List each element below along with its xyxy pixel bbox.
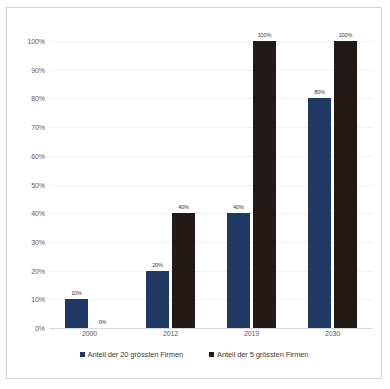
- bar-value-label: 0%: [99, 319, 107, 325]
- bar-group: 80%100%: [292, 41, 373, 328]
- axis-baseline: [49, 328, 373, 329]
- chart-card: 100%90%80%70%60%50%40%30%20%10%0% 10%0%2…: [6, 7, 382, 379]
- y-axis-tick-label: 80%: [13, 95, 45, 102]
- plot-area: 10%0%20%40%40%100%80%100%: [49, 41, 373, 328]
- bar[interactable]: 100%: [253, 41, 276, 328]
- bar[interactable]: 40%: [172, 213, 195, 328]
- x-axis-tick-label: 2019: [211, 330, 292, 344]
- y-axis-tick-label: 90%: [13, 66, 45, 73]
- bar-slot: 40%: [227, 41, 250, 328]
- x-axis: 2000201220192030: [49, 330, 373, 344]
- chart-plot-wrapper: 100%90%80%70%60%50%40%30%20%10%0% 10%0%2…: [7, 8, 381, 378]
- bar-slot: 40%: [172, 41, 195, 328]
- bar[interactable]: 20%: [146, 271, 169, 328]
- y-axis-tick-label: 100%: [13, 38, 45, 45]
- bar[interactable]: 40%: [227, 213, 250, 328]
- legend-entry[interactable]: Anteil der 5 grössten Firmen: [209, 350, 308, 359]
- bar-slot: 100%: [334, 41, 357, 328]
- y-axis-tick-label: 40%: [13, 210, 45, 217]
- legend-entry[interactable]: Anteil der 20 grössten Firmen: [80, 350, 183, 359]
- bar-groups: 10%0%20%40%40%100%80%100%: [49, 41, 373, 328]
- legend-label: Anteil der 5 grössten Firmen: [217, 350, 308, 359]
- bar-value-label: 80%: [314, 89, 325, 95]
- legend-swatch-icon: [80, 352, 85, 357]
- x-axis-tick-label: 2012: [130, 330, 211, 344]
- y-axis-tick-label: 50%: [13, 181, 45, 188]
- bar-slot: 100%: [253, 41, 276, 328]
- x-axis-tick-label: 2030: [292, 330, 373, 344]
- y-axis: 100%90%80%70%60%50%40%30%20%10%0%: [13, 41, 45, 328]
- y-axis-tick-label: 20%: [13, 267, 45, 274]
- bar-slot: 0%: [91, 41, 114, 328]
- bar[interactable]: 80%: [308, 98, 331, 328]
- bar-value-label: 40%: [233, 204, 244, 210]
- bar-slot: 10%: [65, 41, 88, 328]
- y-axis-tick-label: 60%: [13, 152, 45, 159]
- bar[interactable]: 10%: [65, 299, 88, 328]
- bar-value-label: 10%: [71, 290, 82, 296]
- y-axis-tick-label: 10%: [13, 296, 45, 303]
- y-axis-tick-label: 0%: [13, 325, 45, 332]
- bar-group: 10%0%: [49, 41, 130, 328]
- bar-group: 20%40%: [130, 41, 211, 328]
- bar-group: 40%100%: [211, 41, 292, 328]
- y-axis-tick-label: 30%: [13, 238, 45, 245]
- bar-value-label: 100%: [339, 32, 353, 38]
- bar-value-label: 20%: [152, 262, 163, 268]
- legend-swatch-icon: [209, 352, 214, 357]
- bar-slot: 80%: [308, 41, 331, 328]
- x-axis-tick-label: 2000: [49, 330, 130, 344]
- chart-legend: Anteil der 20 grössten FirmenAnteil der …: [7, 350, 381, 359]
- bar-value-label: 100%: [258, 32, 272, 38]
- bar-value-label: 40%: [178, 204, 189, 210]
- bar-slot: 20%: [146, 41, 169, 328]
- bar[interactable]: 100%: [334, 41, 357, 328]
- y-axis-tick-label: 70%: [13, 124, 45, 131]
- legend-label: Anteil der 20 grössten Firmen: [88, 350, 183, 359]
